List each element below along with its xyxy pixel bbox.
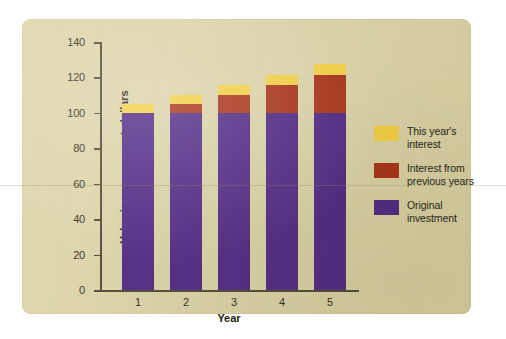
bar-segment-this-year-interest — [122, 104, 154, 113]
y-tick-120: 120 — [94, 77, 100, 79]
bar-year-1[interactable] — [122, 104, 154, 290]
legend-label-this-years-interest: This year's interest — [407, 125, 456, 150]
legend-item-original-investment[interactable]: Original investment — [374, 199, 486, 224]
legend-swatch-original-investment-icon — [374, 200, 399, 215]
bar-year-4[interactable] — [266, 75, 298, 290]
y-tick-label-0: 0 — [79, 284, 85, 296]
bar-segment-original-investment — [122, 113, 154, 290]
x-tick-label-2: 2 — [183, 296, 189, 308]
bar-year-3[interactable] — [218, 85, 250, 290]
bar-segment-original-investment — [266, 113, 298, 290]
y-tick-label-100: 100 — [67, 107, 85, 119]
bar-segment-original-investment — [170, 113, 202, 290]
bar-segment-original-investment — [218, 113, 250, 290]
bar-year-5[interactable] — [314, 64, 346, 290]
bar-segment-interest-previous — [218, 95, 250, 113]
y-tick-100: 100 — [94, 113, 100, 115]
y-tick-0: 0 — [94, 290, 100, 292]
y-tick-20: 20 — [94, 255, 100, 257]
legend-swatch-interest-from-previous-years-icon — [374, 163, 399, 178]
x-axis-title: Year — [100, 312, 358, 324]
y-tick-label-80: 80 — [73, 142, 85, 154]
legend-item-interest-from-previous-years[interactable]: Interest from previous years — [374, 162, 486, 187]
y-tick-label-20: 20 — [73, 249, 85, 261]
y-tick-140: 140 — [94, 42, 100, 44]
chart-plot-area: Value in your account, dollars Year 140 … — [22, 19, 471, 314]
bar-segment-original-investment — [314, 113, 346, 290]
y-tick-80: 80 — [94, 148, 100, 150]
chart-card: Value in your account, dollars Year 140 … — [22, 19, 471, 314]
y-tick-label-140: 140 — [67, 36, 85, 48]
bar-segment-this-year-interest — [266, 75, 298, 85]
bar-segment-interest-previous — [314, 75, 346, 113]
chart-legend: This year's interest Interest from previ… — [374, 125, 486, 236]
legend-label-interest-from-previous-years: Interest from previous years — [407, 162, 474, 187]
bar-segment-this-year-interest — [314, 64, 346, 75]
y-tick-label-40: 40 — [73, 213, 85, 225]
legend-label-original-investment: Original investment — [407, 199, 457, 224]
y-tick-label-60: 60 — [73, 178, 85, 190]
x-tick-label-1: 1 — [135, 296, 141, 308]
axis-area: 140 120 100 80 60 40 20 — [100, 42, 358, 290]
y-tick-60: 60 — [94, 184, 100, 186]
x-tick-label-3: 3 — [231, 296, 237, 308]
y-tick-label-120: 120 — [67, 71, 85, 83]
bar-segment-this-year-interest — [170, 95, 202, 104]
bar-segment-this-year-interest — [218, 85, 250, 95]
bar-year-2[interactable] — [170, 95, 202, 290]
bar-segment-interest-previous — [170, 104, 202, 113]
y-tick-40: 40 — [94, 219, 100, 221]
bar-segment-interest-previous — [266, 85, 298, 113]
y-axis-line — [100, 42, 102, 291]
legend-swatch-this-years-interest-icon — [374, 126, 399, 141]
x-tick-label-4: 4 — [279, 296, 285, 308]
legend-item-this-years-interest[interactable]: This year's interest — [374, 125, 486, 150]
x-tick-label-5: 5 — [327, 296, 333, 308]
screenshot-root: Value in your account, dollars Year 140 … — [0, 0, 506, 339]
x-axis-line — [100, 290, 359, 292]
